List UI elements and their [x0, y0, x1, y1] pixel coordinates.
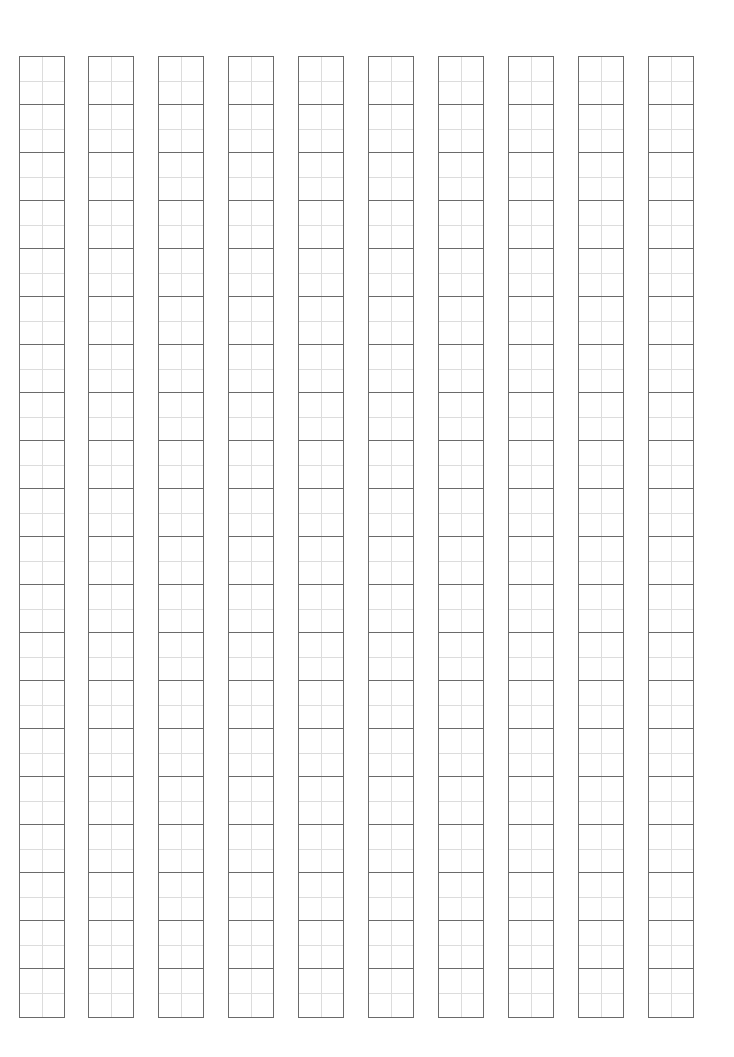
- horizontal-guide-line: [159, 321, 203, 322]
- horizontal-guide-line: [439, 465, 483, 466]
- practice-cell: [299, 153, 343, 201]
- practice-cell: [159, 489, 203, 537]
- horizontal-guide-line: [20, 513, 64, 514]
- practice-cell: [299, 777, 343, 825]
- practice-cell: [159, 345, 203, 393]
- horizontal-guide-line: [369, 177, 413, 178]
- practice-cell: [299, 393, 343, 441]
- practice-cell: [20, 585, 64, 633]
- practice-cell: [89, 201, 133, 249]
- horizontal-guide-line: [649, 801, 693, 802]
- practice-cell: [649, 105, 693, 153]
- horizontal-guide-line: [20, 561, 64, 562]
- horizontal-guide-line: [89, 513, 133, 514]
- horizontal-guide-line: [229, 273, 273, 274]
- practice-cell: [369, 201, 413, 249]
- horizontal-guide-line: [159, 465, 203, 466]
- practice-cell: [229, 537, 273, 585]
- horizontal-guide-line: [89, 177, 133, 178]
- practice-cell: [229, 825, 273, 873]
- horizontal-guide-line: [579, 81, 623, 82]
- horizontal-guide-line: [579, 945, 623, 946]
- practice-cell: [229, 57, 273, 105]
- horizontal-guide-line: [369, 561, 413, 562]
- horizontal-guide-line: [579, 561, 623, 562]
- horizontal-guide-line: [229, 657, 273, 658]
- horizontal-guide-line: [89, 993, 133, 994]
- horizontal-guide-line: [89, 801, 133, 802]
- horizontal-guide-line: [229, 321, 273, 322]
- practice-cell: [89, 537, 133, 585]
- horizontal-guide-line: [20, 369, 64, 370]
- practice-sheet: [0, 0, 734, 1057]
- grid-column-1: [19, 56, 65, 1018]
- horizontal-guide-line: [509, 177, 553, 178]
- horizontal-guide-line: [299, 417, 343, 418]
- horizontal-guide-line: [20, 609, 64, 610]
- horizontal-guide-line: [509, 897, 553, 898]
- practice-cell: [439, 729, 483, 777]
- practice-cell: [579, 393, 623, 441]
- horizontal-guide-line: [159, 753, 203, 754]
- horizontal-guide-line: [439, 705, 483, 706]
- horizontal-guide-line: [20, 657, 64, 658]
- practice-cell: [579, 873, 623, 921]
- practice-cell: [649, 585, 693, 633]
- horizontal-guide-line: [229, 609, 273, 610]
- practice-cell: [89, 249, 133, 297]
- practice-cell: [509, 825, 553, 873]
- practice-cell: [229, 345, 273, 393]
- practice-cell: [159, 153, 203, 201]
- practice-cell: [579, 345, 623, 393]
- practice-cell: [159, 633, 203, 681]
- practice-cell: [299, 345, 343, 393]
- horizontal-guide-line: [299, 561, 343, 562]
- practice-cell: [20, 153, 64, 201]
- practice-cell: [369, 393, 413, 441]
- horizontal-guide-line: [229, 81, 273, 82]
- horizontal-guide-line: [20, 321, 64, 322]
- practice-cell: [579, 969, 623, 1017]
- practice-cell: [229, 921, 273, 969]
- horizontal-guide-line: [369, 849, 413, 850]
- horizontal-guide-line: [649, 177, 693, 178]
- practice-cell: [20, 105, 64, 153]
- horizontal-guide-line: [369, 369, 413, 370]
- practice-cell: [89, 297, 133, 345]
- practice-cell: [579, 729, 623, 777]
- horizontal-guide-line: [439, 849, 483, 850]
- horizontal-guide-line: [299, 369, 343, 370]
- horizontal-guide-line: [579, 657, 623, 658]
- horizontal-guide-line: [579, 273, 623, 274]
- horizontal-guide-line: [439, 609, 483, 610]
- practice-cell: [579, 633, 623, 681]
- practice-cell: [439, 57, 483, 105]
- horizontal-guide-line: [509, 609, 553, 610]
- practice-cell: [229, 393, 273, 441]
- horizontal-guide-line: [369, 225, 413, 226]
- horizontal-guide-line: [20, 417, 64, 418]
- practice-cell: [509, 201, 553, 249]
- horizontal-guide-line: [299, 465, 343, 466]
- practice-cell: [20, 345, 64, 393]
- practice-cell: [649, 441, 693, 489]
- horizontal-guide-line: [89, 273, 133, 274]
- horizontal-guide-line: [509, 993, 553, 994]
- practice-cell: [649, 537, 693, 585]
- practice-cell: [649, 297, 693, 345]
- practice-cell: [439, 633, 483, 681]
- practice-cell: [649, 57, 693, 105]
- practice-cell: [159, 393, 203, 441]
- practice-cell: [299, 585, 343, 633]
- horizontal-guide-line: [649, 81, 693, 82]
- practice-cell: [369, 249, 413, 297]
- horizontal-guide-line: [299, 177, 343, 178]
- practice-cell: [369, 633, 413, 681]
- practice-cell: [89, 489, 133, 537]
- practice-cell: [369, 441, 413, 489]
- horizontal-guide-line: [439, 801, 483, 802]
- practice-cell: [299, 105, 343, 153]
- practice-cell: [369, 873, 413, 921]
- horizontal-guide-line: [579, 225, 623, 226]
- practice-cell: [439, 489, 483, 537]
